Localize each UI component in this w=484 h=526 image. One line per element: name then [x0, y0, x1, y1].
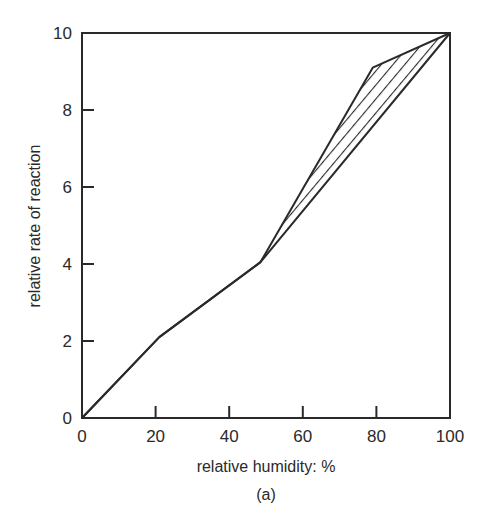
- y-tick-label: 4: [63, 255, 72, 274]
- y-axis-label: relative rate of reaction: [26, 145, 43, 308]
- x-tick-label: 20: [146, 427, 165, 446]
- x-tick-label: 0: [77, 427, 86, 446]
- x-tick-label: 60: [293, 427, 312, 446]
- y-tick-label: 8: [63, 101, 72, 120]
- y-tick-label: 10: [53, 24, 72, 43]
- y-tick-label: 2: [63, 332, 72, 351]
- y-tick-label: 0: [63, 409, 72, 428]
- y-tick-label: 6: [63, 178, 72, 197]
- caption-label: (a): [256, 486, 276, 503]
- x-axis-label: relative humidity: %: [197, 458, 336, 475]
- x-tick-label: 80: [367, 427, 386, 446]
- x-tick-label: 100: [436, 427, 464, 446]
- plot-area: 0246810020406080100: [53, 24, 464, 446]
- chart: 0246810020406080100 relative humidity: %…: [0, 0, 484, 526]
- x-tick-label: 40: [220, 427, 239, 446]
